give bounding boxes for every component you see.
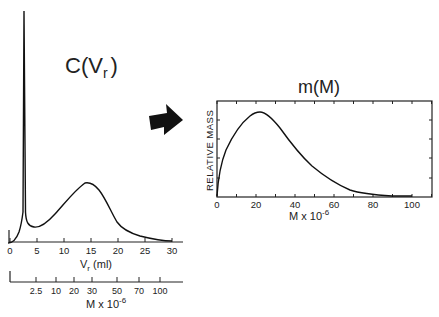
- m-secondary-tick-label: 2.5: [30, 286, 43, 296]
- m-m-plot-frame: [217, 101, 432, 197]
- vr-tick-label: 30: [167, 245, 178, 256]
- m-m-xlabel: M x 10-6: [289, 208, 330, 222]
- m-secondary-tick-label: 70: [134, 286, 144, 296]
- m-m-tick-label: 100: [404, 199, 420, 210]
- c-vr-curve: [8, 11, 172, 243]
- vr-tick-label: 5: [34, 245, 39, 256]
- m-m-tick-labels: 020406080100: [214, 199, 420, 210]
- m-m-tick-label: 60: [329, 199, 340, 210]
- m-secondary-tick-label: 10: [51, 286, 61, 296]
- m-m-axis-ticks: [217, 101, 432, 197]
- right-arrow-icon: [149, 104, 183, 135]
- vr-axis-label: Vr (ml): [80, 258, 112, 273]
- m-m-tick-label: 40: [290, 199, 301, 210]
- vr-tick-label: 15: [86, 245, 97, 256]
- vr-tick-label: 20: [113, 245, 124, 256]
- m-secondary-axis-label: M x 10-6: [86, 296, 127, 310]
- vr-tick-label: 25: [140, 245, 151, 256]
- vr-tick-label: 10: [59, 245, 70, 256]
- m-secondary-tick-label: 100: [152, 286, 167, 296]
- m-secondary-axis-ticks: 2.51020305070100: [30, 277, 168, 296]
- vr-tick-label: 0: [7, 245, 12, 256]
- m-m-tick-label: 80: [368, 199, 379, 210]
- c-vr-title: C(Vr): [65, 53, 118, 81]
- figure: 051015202530 C(Vr) Vr (ml) 2.51020305070…: [0, 0, 439, 317]
- right-chart: m(M) RELATIVE MASS 020406080100 M x 10-6: [204, 77, 432, 222]
- m-m-curve: [217, 112, 412, 196]
- m-m-tick-label: 0: [214, 199, 219, 210]
- m-m-tick-label: 20: [251, 199, 262, 210]
- left-chart: 051015202530 C(Vr) Vr (ml) 2.51020305070…: [7, 11, 183, 310]
- relative-mass-label: RELATIVE MASS: [204, 110, 215, 191]
- m-secondary-tick-label: 50: [112, 286, 122, 296]
- m-secondary-tick-label: 20: [69, 286, 79, 296]
- vr-axis-ticks: 051015202530: [7, 238, 177, 256]
- m-m-title: m(M): [298, 77, 340, 97]
- m-secondary-tick-label: 30: [87, 286, 97, 296]
